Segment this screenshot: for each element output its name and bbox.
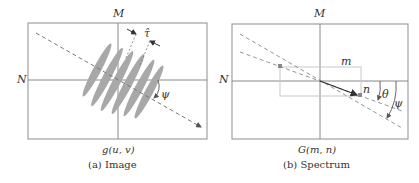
spectrum-function-label: G(m, n) <box>298 144 336 155</box>
spectrum-axis-n-label: N <box>219 73 229 86</box>
diagram-canvas <box>0 0 419 183</box>
spectrum-psi-label: ψ <box>394 97 403 110</box>
spectrum-caption: (b) Spectrum <box>283 159 350 170</box>
image-axis-m-label: M <box>113 7 124 20</box>
spectrum-panel <box>232 24 408 139</box>
image-spacing-label: τ̂ <box>144 27 150 40</box>
image-angle-label: ψ <box>161 88 170 101</box>
spectrum-axis-m-label: M <box>314 7 325 20</box>
spectrum-peak-left <box>278 64 282 68</box>
spectrum-m-label: m <box>341 55 351 68</box>
image-function-label: g(u, v) <box>102 144 135 155</box>
spectrum-theta-label: θ <box>382 88 389 101</box>
image-axis-n-label: N <box>17 73 27 86</box>
spectrum-n-label: n <box>363 83 370 96</box>
spectrum-vector <box>320 81 357 95</box>
image-stripes <box>79 42 166 121</box>
image-panel <box>28 23 207 139</box>
spectrum-peak-right <box>358 93 362 97</box>
image-caption: (a) Image <box>88 159 137 170</box>
spectrum-theta-arc <box>378 81 380 100</box>
